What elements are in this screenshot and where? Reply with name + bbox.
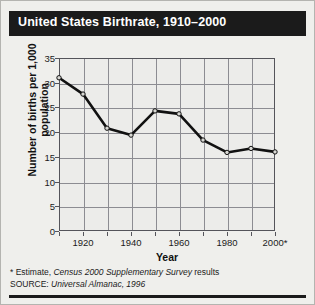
birthrate-line-series: [59, 58, 275, 231]
y-tick-mark: [55, 107, 59, 108]
data-point-marker: [225, 150, 229, 154]
x-tick-mark: [155, 232, 156, 236]
data-point-marker: [201, 138, 205, 142]
x-axis-tick-labels: 19201940196019802000*: [59, 237, 275, 251]
data-point-marker: [153, 109, 157, 113]
y-axis-title: Number of births per 1,000 population: [26, 35, 50, 185]
x-tick-mark: [227, 232, 228, 236]
data-point-marker: [249, 146, 253, 150]
y-tick-mark: [55, 182, 59, 183]
x-tick-mark: [83, 232, 84, 236]
footnote-estimate-suffix: results: [192, 267, 219, 277]
bottom-rule: [9, 295, 306, 298]
y-tick-mark: [55, 132, 59, 133]
x-tick-label: 2000*: [263, 237, 288, 248]
footnote-estimate-source: Census 2000 Supplementary Survey: [53, 267, 191, 277]
page-title: United States Birthrate, 1910–2000: [18, 15, 226, 29]
x-tick-mark: [131, 232, 132, 236]
x-axis-title: Year: [59, 251, 275, 263]
footnote-estimate: * Estimate, Census 2000 Supplementary Su…: [10, 267, 308, 279]
chart-figure: United States Birthrate, 1910–2000 05101…: [0, 0, 315, 305]
x-tick-mark: [59, 232, 60, 236]
x-tick-label: 1940: [120, 237, 141, 248]
y-tick-label: 0: [33, 226, 55, 237]
data-point-marker: [129, 133, 133, 137]
footnote-estimate-prefix: * Estimate,: [10, 267, 53, 277]
footnote-source: SOURCE: Universal Almanac, 1996: [10, 279, 308, 291]
y-tick-label: 5: [33, 201, 55, 212]
footnote-source-prefix: SOURCE:: [10, 279, 51, 289]
footnotes: * Estimate, Census 2000 Supplementary Su…: [10, 267, 308, 290]
x-tick-label: 1920: [72, 237, 93, 248]
x-tick-mark: [107, 232, 108, 236]
x-tick-mark: [275, 232, 276, 236]
y-tick-mark: [55, 157, 59, 158]
footnote-source-name: Universal Almanac, 1996: [51, 279, 145, 289]
data-point-marker: [57, 76, 61, 80]
chart-title-band: United States Birthrate, 1910–2000: [9, 11, 306, 36]
data-point-marker: [81, 92, 85, 96]
x-tick-mark: [251, 232, 252, 236]
x-tick-label: 1960: [168, 237, 189, 248]
y-tick-mark: [55, 58, 59, 59]
y-tick-mark: [55, 83, 59, 84]
series-line: [59, 78, 275, 153]
x-tick-mark: [203, 232, 204, 236]
data-point-marker: [105, 126, 109, 130]
data-point-marker: [273, 150, 277, 154]
y-tick-mark: [55, 206, 59, 207]
x-tick-label: 1980: [216, 237, 237, 248]
x-tick-mark: [179, 232, 180, 236]
data-point-marker: [177, 112, 181, 116]
